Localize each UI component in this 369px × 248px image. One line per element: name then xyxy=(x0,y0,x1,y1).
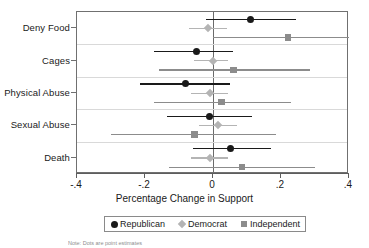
x-axis-tick xyxy=(144,173,145,178)
y-axis-tick xyxy=(71,27,77,28)
x-axis-title: Percentage Change in Support xyxy=(0,193,369,204)
point-estimate-marker xyxy=(247,16,254,23)
legend: RepublicanDemocratIndependent xyxy=(104,216,306,232)
plot-area xyxy=(76,11,348,173)
x-axis-tick-label: 0 xyxy=(209,179,215,190)
y-axis-tick xyxy=(71,60,77,61)
figure-note: Note: Dots are point estimates xyxy=(68,240,328,248)
point-estimate-marker xyxy=(218,99,225,106)
x-axis-tick-label: -.2 xyxy=(138,179,150,190)
y-axis-label: Cages xyxy=(42,54,70,65)
x-axis-tick xyxy=(348,173,349,178)
estimate-row xyxy=(77,32,347,43)
y-axis-tick xyxy=(71,157,77,158)
point-estimate-marker xyxy=(230,67,237,74)
x-axis-tick xyxy=(280,173,281,178)
point-estimate-marker xyxy=(191,131,198,138)
estimate-row xyxy=(77,162,347,173)
legend-label: Democrat xyxy=(188,219,227,229)
coefficient-plot-figure: Deny FoodCagesPhysical AbuseSexual Abuse… xyxy=(0,0,369,248)
y-axis-tick xyxy=(71,124,77,125)
x-axis-tick xyxy=(76,173,77,178)
confidence-interval-whisker xyxy=(213,37,349,38)
point-estimate-marker xyxy=(239,164,246,171)
estimate-row xyxy=(77,64,347,75)
legend-label: Republican xyxy=(120,219,165,229)
legend-entry: Republican xyxy=(110,219,165,229)
y-axis-label: Death xyxy=(44,151,70,162)
x-axis-tick-label: .2 xyxy=(276,179,284,190)
y-axis-label: Sexual Abuse xyxy=(11,119,70,130)
x-axis-tick-label: -.4 xyxy=(70,179,82,190)
legend-marker-square-icon xyxy=(240,220,248,228)
legend-marker-circle-icon xyxy=(110,220,118,228)
legend-entry: Democrat xyxy=(178,219,227,229)
estimate-row xyxy=(77,129,347,140)
legend-entry: Independent xyxy=(240,219,300,229)
point-estimate-marker xyxy=(182,80,189,87)
x-axis-tick xyxy=(212,173,213,178)
estimate-row xyxy=(77,97,347,108)
legend-marker-diamond-icon xyxy=(178,220,186,228)
point-estimate-marker xyxy=(285,34,292,41)
legend-label: Independent xyxy=(250,219,300,229)
y-axis-label: Physical Abuse xyxy=(4,87,70,98)
point-estimate-marker xyxy=(206,113,213,120)
point-estimate-marker xyxy=(193,48,200,55)
x-axis-tick-label: .4 xyxy=(344,179,352,190)
point-estimate-marker xyxy=(227,145,234,152)
y-axis-label: Deny Food xyxy=(23,22,70,33)
y-axis-tick xyxy=(71,92,77,93)
